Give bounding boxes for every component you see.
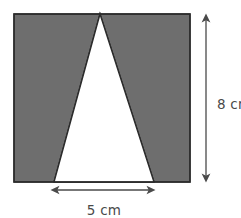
- geometry-figure-svg: 8 cm 5 cm: [0, 0, 241, 218]
- height-dimension-label: 8 cm: [217, 96, 241, 112]
- width-dimension-label: 5 cm: [87, 202, 121, 218]
- geometry-figure: 8 cm 5 cm: [0, 0, 241, 218]
